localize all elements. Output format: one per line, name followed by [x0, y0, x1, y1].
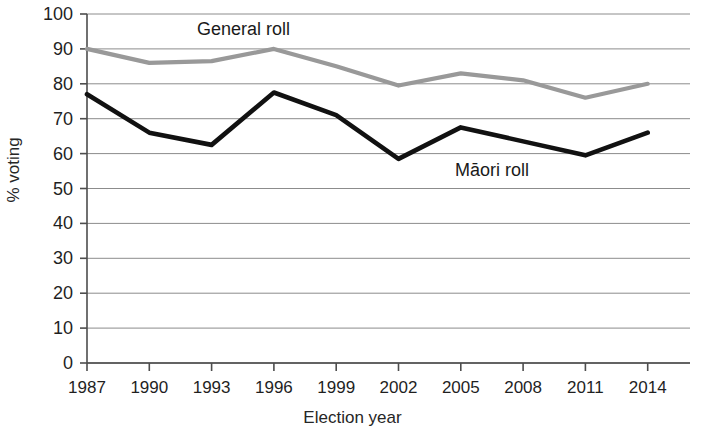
x-tick-label: 2011	[554, 379, 616, 396]
chart-figure: % voting Election year 10090807060504030…	[0, 0, 705, 437]
y-tick-label: 50	[21, 180, 73, 198]
x-axis-title: Election year	[0, 408, 705, 428]
y-tick-label: 40	[21, 214, 73, 232]
x-tick-label: 2002	[368, 379, 430, 396]
x-tick-label: 2014	[617, 379, 679, 396]
series-line-general-roll	[87, 49, 648, 98]
plot-area	[0, 0, 705, 437]
y-tick-label: 10	[21, 319, 73, 337]
x-tick-label: 1993	[181, 379, 243, 396]
x-tick-label: 1999	[305, 379, 367, 396]
y-tick-label: 30	[21, 249, 73, 267]
series-label-general-roll: General roll	[197, 19, 290, 40]
x-tick-label: 2008	[492, 379, 554, 396]
y-tick-label: 100	[21, 5, 73, 23]
y-tick-label: 90	[21, 40, 73, 58]
series-line-m-ori-roll	[87, 93, 648, 159]
x-tick-label: 1987	[56, 379, 118, 396]
y-axis-title: % voting	[4, 110, 24, 230]
axis-ticks	[80, 14, 648, 371]
data-series	[87, 49, 648, 159]
y-tick-label: 70	[21, 110, 73, 128]
x-tick-label: 1996	[243, 379, 305, 396]
gridlines	[87, 14, 690, 363]
y-tick-label: 20	[21, 284, 73, 302]
x-tick-label: 2005	[430, 379, 492, 396]
series-label-maori-roll: Māori roll	[455, 160, 529, 181]
y-tick-label: 60	[21, 145, 73, 163]
y-tick-label: 0	[21, 354, 73, 372]
x-tick-label: 1990	[118, 379, 180, 396]
y-tick-label: 80	[21, 75, 73, 93]
